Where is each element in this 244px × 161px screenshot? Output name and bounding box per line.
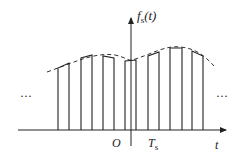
y-axis-label: fs(t): [137, 8, 156, 25]
sample-pulse: [81, 55, 92, 130]
sample-pulse: [148, 52, 159, 130]
sample-pulse: [103, 56, 114, 130]
sample-pulse: [58, 63, 69, 130]
sampled-signal-diagram: fs(t) O Ts t ··· ···: [0, 0, 244, 161]
right-ellipsis: ···: [216, 89, 228, 103]
sample-pulse: [192, 51, 203, 130]
left-ellipsis: ···: [20, 89, 32, 103]
x-axis-label: t: [215, 138, 219, 152]
period-label: Ts: [148, 136, 159, 152]
origin-label: O: [112, 136, 121, 150]
sample-pulse: [170, 48, 182, 130]
